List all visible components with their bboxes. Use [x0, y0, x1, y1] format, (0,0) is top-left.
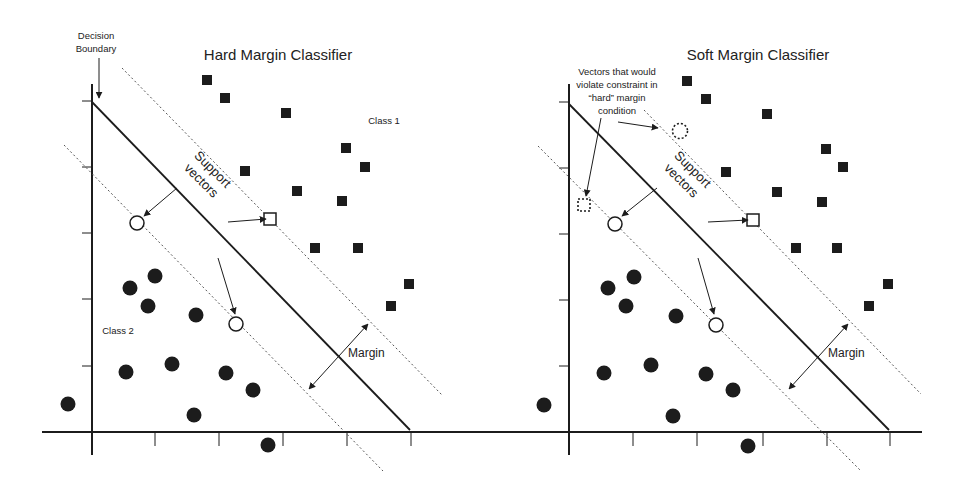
class2-circle: [165, 357, 180, 372]
class2-circle: [627, 270, 642, 285]
class1-square: [864, 301, 874, 311]
decision-boundary-label-line1: Decision: [78, 30, 114, 41]
class1-square: [883, 279, 893, 289]
class2-label: Class 2: [102, 325, 134, 336]
class1-square: [386, 301, 396, 311]
class2-circle: [601, 281, 616, 296]
support-vector-circle: [608, 217, 622, 231]
class2-circle: [123, 281, 138, 296]
class2-circle: [741, 439, 756, 454]
class1-square: [791, 243, 801, 253]
class2-circle: [141, 299, 156, 314]
support-vector-circle: [229, 317, 243, 331]
soft-margin-title: Soft Margin Classifier: [687, 46, 830, 63]
class2-circle: [119, 365, 134, 380]
violating-circle: [673, 124, 688, 139]
class1-square: [292, 186, 302, 196]
class1-square: [360, 162, 370, 172]
class2-circle: [597, 366, 612, 381]
class1-square: [701, 94, 711, 104]
violating-square: [578, 199, 590, 211]
class1-square: [772, 187, 782, 197]
class1-square: [762, 109, 772, 119]
class1-square: [682, 76, 692, 86]
class2-circle: [726, 383, 741, 398]
class2-circle: [537, 398, 552, 413]
class2-circle: [261, 438, 276, 453]
class1-square: [721, 167, 731, 177]
class1-square: [341, 143, 351, 153]
upper-margin-line: [644, 110, 921, 394]
class2-circle: [669, 309, 684, 324]
class1-label: Class 1: [368, 115, 400, 126]
support-vector-arrow: [698, 258, 714, 314]
class2-circle: [644, 358, 659, 373]
support-vector-circle: [709, 318, 723, 332]
class2-circle: [61, 397, 76, 412]
violation-label-line4: condition: [598, 105, 636, 116]
class1-square: [310, 243, 320, 253]
soft-margin-panel: Soft Margin Classifier Vectors that woul…: [42, 46, 922, 471]
lower-margin-line: [64, 145, 383, 471]
soft-margin-geometry: [42, 76, 922, 471]
class2-circle: [148, 269, 163, 284]
support-vector-circle: [130, 216, 144, 230]
class1-square: [838, 162, 848, 172]
class1-square: [404, 279, 414, 289]
svm-margin-diagram: Hard Margin Classifier Decision Boundary…: [0, 0, 960, 485]
class1-square: [817, 197, 827, 207]
margin-label: Margin: [348, 346, 385, 360]
decision-boundary-line: [569, 104, 889, 430]
class1-square: [202, 75, 212, 85]
support-vector-square: [747, 214, 759, 226]
class1-square: [281, 108, 291, 118]
class2-circle: [699, 367, 714, 382]
violation-label-line2: violate constraint in: [576, 79, 657, 90]
support-vector-arrow: [708, 220, 748, 222]
class1-square: [353, 243, 363, 253]
hard-margin-title: Hard Margin Classifier: [204, 46, 352, 63]
class2-circle: [666, 409, 681, 424]
class1-square: [821, 144, 831, 154]
class1-square: [832, 243, 842, 253]
decision-boundary-line: [92, 102, 410, 430]
support-vector-arrow: [218, 258, 235, 314]
class1-square: [220, 93, 230, 103]
support-vector-arrow: [144, 188, 177, 216]
class1-square: [337, 196, 347, 206]
violation-label-line3: “hard” margin: [588, 92, 645, 103]
class2-circle: [219, 366, 234, 381]
class2-circle: [619, 299, 634, 314]
support-vector-arrow: [622, 188, 657, 216]
class2-circle: [189, 308, 204, 323]
decision-boundary-label-line2: Boundary: [76, 43, 117, 54]
violation-arrow: [618, 122, 658, 128]
margin-label: Margin: [828, 346, 865, 360]
hard-margin-panel: Hard Margin Classifier Decision Boundary…: [46, 30, 443, 471]
class2-circle: [246, 383, 261, 398]
class1-square: [240, 166, 250, 176]
class2-circle: [187, 408, 202, 423]
support-vector-arrow: [228, 219, 266, 222]
violation-label-line1: Vectors that would: [578, 66, 656, 77]
